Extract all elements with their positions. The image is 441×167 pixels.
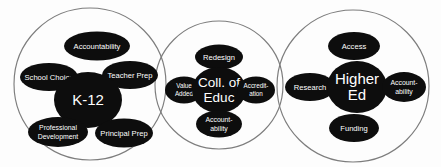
node-funding[interactable]: Funding bbox=[329, 114, 379, 142]
node-principal-prep[interactable]: Principal Prep bbox=[95, 119, 153, 148]
node-label: Teacher Prep bbox=[107, 71, 152, 80]
node-label: Principal Prep bbox=[100, 129, 147, 138]
node-label: K-12 bbox=[72, 91, 104, 108]
node-higher-ed-core[interactable]: Higher Ed bbox=[327, 61, 387, 113]
node-accountability-k12[interactable]: Accountability bbox=[64, 32, 130, 61]
node-access[interactable]: Access bbox=[328, 32, 380, 60]
node-label-line1: Accredit- bbox=[244, 82, 269, 89]
node-label-line2: Ed bbox=[348, 86, 366, 103]
node-label-line1: Account- bbox=[390, 79, 417, 86]
node-label-line1: Account- bbox=[205, 116, 232, 123]
node-label: Accountability bbox=[74, 42, 121, 51]
node-label: Funding bbox=[340, 124, 367, 133]
node-label: Access bbox=[342, 42, 367, 51]
node-label: Research bbox=[294, 83, 327, 92]
node-redesign[interactable]: Redesign bbox=[195, 45, 243, 70]
node-label-line1: Coll. of bbox=[198, 75, 240, 90]
node-label-line1: Professional bbox=[39, 124, 77, 131]
node-label-line2: ability bbox=[395, 88, 413, 96]
venn-diagram-canvas: Accountability School Choice Teacher Pre… bbox=[0, 0, 441, 167]
node-label-line1: Value bbox=[176, 82, 192, 89]
node-accountability-he[interactable]: Account- ability bbox=[382, 72, 426, 102]
node-label-line2: ation bbox=[249, 90, 263, 97]
venn-diagram: Accountability School Choice Teacher Pre… bbox=[0, 0, 441, 167]
node-label-line1: Higher bbox=[335, 70, 379, 87]
node-accountability-coe[interactable]: Account- ability bbox=[196, 111, 242, 138]
node-label-line2: Educ bbox=[204, 90, 235, 105]
node-professional-development[interactable]: Professional Development bbox=[28, 117, 88, 147]
node-accreditation[interactable]: Accredit- ation bbox=[237, 77, 275, 104]
node-label-line2: Added bbox=[175, 90, 194, 97]
node-label-line2: Development bbox=[38, 133, 79, 141]
node-label-line2: ability bbox=[210, 125, 228, 133]
node-label: Redesign bbox=[203, 53, 235, 62]
